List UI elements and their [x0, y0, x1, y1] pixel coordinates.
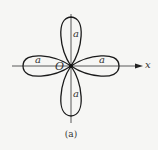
petal-label-top: a: [73, 29, 79, 39]
four-petal-rose-diagram: a a a a O x (a): [0, 0, 158, 150]
x-axis-arrow-icon: [135, 64, 143, 69]
origin-point: [69, 64, 73, 68]
origin-label: O: [55, 61, 64, 72]
diagram-graphic: [0, 0, 158, 150]
x-axis-label: x: [145, 60, 151, 70]
petal-label-right: a: [99, 55, 105, 65]
figure-caption: (a): [0, 129, 142, 139]
petal-label-bottom: a: [73, 89, 79, 99]
petal-label-left: a: [35, 55, 41, 65]
